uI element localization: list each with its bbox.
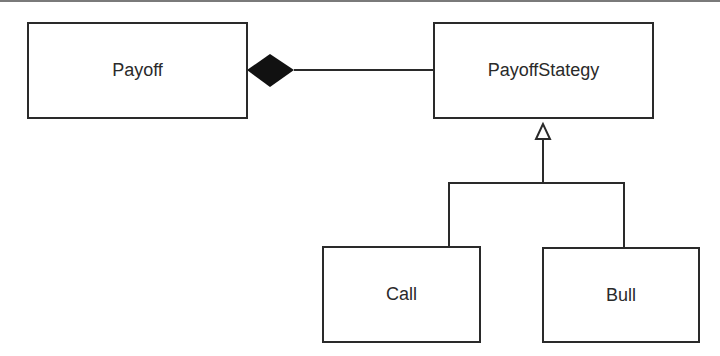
class-label: Bull xyxy=(606,285,636,306)
class-payoff: Payoff xyxy=(27,22,248,119)
class-bull: Bull xyxy=(542,247,700,343)
class-call: Call xyxy=(322,246,481,343)
class-label: Payoff xyxy=(112,60,163,81)
class-payoff-strategy: PayoffStategy xyxy=(433,22,654,119)
class-label: PayoffStategy xyxy=(488,60,600,81)
filled-diamond-icon xyxy=(247,54,294,87)
class-label: Call xyxy=(386,284,417,305)
hollow-triangle-icon xyxy=(536,124,550,139)
